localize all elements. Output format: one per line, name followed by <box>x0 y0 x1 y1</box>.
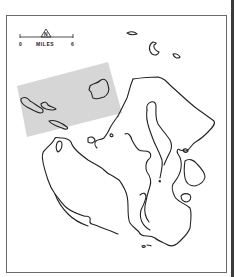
main-north-coast <box>118 79 133 116</box>
north-arrow-label: N <box>44 31 48 37</box>
island-east-1 <box>184 160 205 186</box>
west-peninsula-2 <box>88 137 95 143</box>
island-east-3 <box>181 194 191 202</box>
southern-landmass <box>55 194 88 226</box>
central-channel <box>125 133 151 222</box>
west-peninsula-1 <box>56 141 62 152</box>
scale-unit-label: MILES <box>36 41 54 47</box>
inland-inlet-west <box>147 110 163 178</box>
main-west-inlets <box>95 116 118 148</box>
island-ne-crescent <box>149 42 159 55</box>
islet-south-2 <box>147 245 151 246</box>
islet-south-1 <box>142 246 145 248</box>
scale-start-label: 0 <box>19 41 22 47</box>
island-ne-small-2 <box>173 54 180 58</box>
scale-end-label: 6 <box>71 41 74 47</box>
west-islet <box>110 134 113 137</box>
shaded-study-area <box>17 62 122 137</box>
islet-inland <box>159 181 160 182</box>
island-ne-small-1 <box>127 32 137 35</box>
